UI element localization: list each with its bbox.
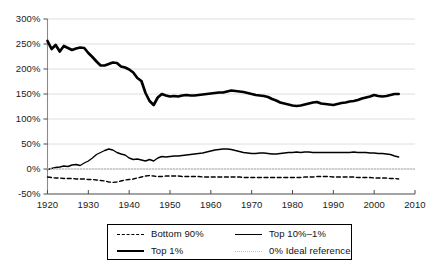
y-axis-tick-label: -50% <box>0 188 41 199</box>
y-axis-tick-label: 100% <box>0 113 41 124</box>
legend-label: Top 1% <box>151 245 183 256</box>
series-line <box>48 176 399 183</box>
x-axis-tick-label: 1960 <box>191 199 231 210</box>
legend-item-ideal-reference: 0% Ideal reference <box>226 242 353 259</box>
y-axis-tick-label: 150% <box>0 88 41 99</box>
x-axis-tick-label: 2010 <box>395 199 430 210</box>
y-axis-tick-label: 250% <box>0 38 41 49</box>
x-axis-tick-label: 1930 <box>68 199 108 210</box>
x-axis-tick-label: 1920 <box>28 199 68 210</box>
series-line <box>48 41 399 106</box>
thin-line-swatch-icon <box>235 229 262 239</box>
x-axis-tick-label: 1980 <box>273 199 313 210</box>
legend-item-bottom-90: Bottom 90% <box>108 225 226 242</box>
chart-legend: Bottom 90% Top 10%–1% Top 1% 0% Ideal re… <box>107 224 352 260</box>
x-axis-tick-label: 2000 <box>354 199 394 210</box>
legend-item-top-1: Top 1% <box>108 242 226 259</box>
dashed-line-swatch-icon <box>117 229 144 239</box>
x-axis-tick-label: 1970 <box>232 199 272 210</box>
legend-item-top-10-1: Top 10%–1% <box>226 225 353 242</box>
dotted-line-swatch-icon <box>235 246 262 256</box>
y-axis-tick-label: 200% <box>0 63 41 74</box>
y-axis-tick-label: 300% <box>0 13 41 24</box>
x-axis-tick-label: 1950 <box>150 199 190 210</box>
legend-label: Bottom 90% <box>151 228 204 239</box>
legend-label: Top 10%–1% <box>269 228 326 239</box>
legend-label: 0% Ideal reference <box>269 245 351 256</box>
x-axis-tick-label: 1940 <box>109 199 149 210</box>
y-axis-tick-label: 50% <box>0 138 41 149</box>
thick-line-swatch-icon <box>117 246 144 256</box>
x-axis-tick-label: 1990 <box>313 199 353 210</box>
y-axis-tick-label: 0% <box>0 163 41 174</box>
series-line <box>48 149 399 170</box>
